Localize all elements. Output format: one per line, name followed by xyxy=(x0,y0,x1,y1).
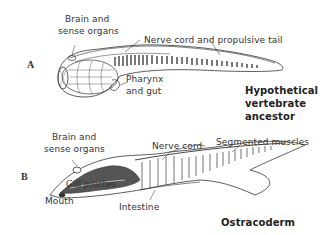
label-b-gill-pouches: Gill pouches xyxy=(66,179,115,190)
label-b-mouth: Mouth xyxy=(45,196,74,207)
label-a-brain-line2: sense organs xyxy=(58,26,119,37)
label-b-segmented-muscles: Segmented muscles xyxy=(216,137,309,148)
panel-b-letter: B xyxy=(21,171,28,182)
label-a-pharynx-line2: and gut xyxy=(126,86,161,97)
label-b-nerve-cord: Nerve cord xyxy=(152,141,202,152)
label-b-brain-line2: sense organs xyxy=(44,144,105,155)
label-a-brain-line1: Brain and xyxy=(65,14,109,25)
label-a-nerve-cord: Nerve cord and propulsive tail xyxy=(144,35,283,46)
panel-a-title-line1: Hypothetical xyxy=(245,84,318,97)
panel-b-title: Ostracoderm xyxy=(221,216,295,229)
panel-a-title-line3: ancestor xyxy=(245,110,295,123)
label-b-brain-line1: Brain and xyxy=(52,132,96,143)
label-a-pharynx-line1: Pharynx xyxy=(126,74,163,85)
label-b-intestine: Intestine xyxy=(119,202,159,213)
panel-a-title-line2: vertebrate xyxy=(245,97,306,110)
panel-a-letter: A xyxy=(27,59,34,70)
